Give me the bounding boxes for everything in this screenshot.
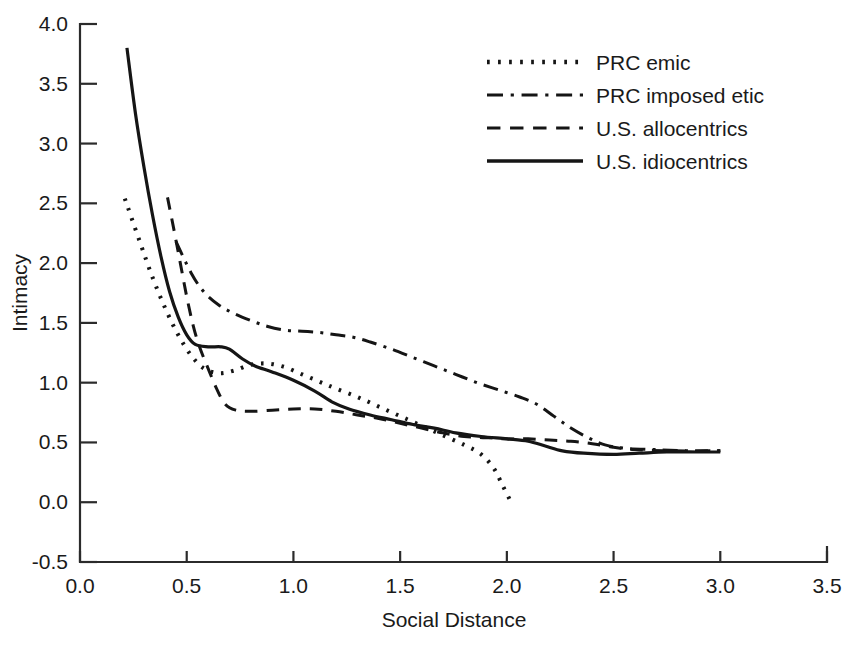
x-tick-label: 2.0 bbox=[492, 574, 521, 597]
x-tick-label: 0.0 bbox=[65, 574, 94, 597]
legend-label: PRC imposed etic bbox=[596, 84, 764, 107]
series-line-u-s-idiocentrics bbox=[127, 48, 720, 454]
y-tick-label: 3.0 bbox=[39, 132, 68, 155]
legend-label: PRC emic bbox=[596, 51, 691, 74]
y-axis-ticks bbox=[80, 24, 97, 562]
chart-legend: PRC emicPRC imposed eticU.S. allocentric… bbox=[487, 51, 764, 173]
x-axis-ticks bbox=[80, 551, 827, 562]
y-tick-label: 1.0 bbox=[39, 371, 68, 394]
x-tick-label: 1.5 bbox=[386, 574, 415, 597]
series-line-prc-imposed-etic bbox=[176, 242, 720, 451]
x-tick-label: 0.5 bbox=[172, 574, 201, 597]
y-tick-label: 0.0 bbox=[39, 490, 68, 513]
y-tick-label: 0.5 bbox=[39, 430, 68, 453]
chart-figure: 0.00.51.01.52.02.53.03.5 -0.50.00.51.01.… bbox=[0, 0, 847, 645]
line-chart-svg: 0.00.51.01.52.02.53.03.5 -0.50.00.51.01.… bbox=[0, 0, 847, 645]
x-axis-title: Social Distance bbox=[382, 608, 527, 631]
x-tick-label: 1.0 bbox=[279, 574, 308, 597]
y-axis-tick-labels: -0.50.00.51.01.52.02.53.03.54.0 bbox=[32, 12, 68, 573]
x-axis-tick-labels: 0.00.51.01.52.02.53.03.5 bbox=[65, 574, 841, 597]
series-line-u-s-allocentrics bbox=[168, 197, 721, 451]
y-tick-label: 4.0 bbox=[39, 12, 68, 35]
y-axis-title: Intimacy bbox=[8, 253, 31, 332]
series-line-prc-emic bbox=[125, 199, 511, 503]
legend-label: U.S. allocentrics bbox=[596, 117, 748, 140]
y-tick-label: 2.5 bbox=[39, 191, 68, 214]
x-tick-label: 2.5 bbox=[599, 574, 628, 597]
y-tick-label: 3.5 bbox=[39, 72, 68, 95]
y-tick-label: 1.5 bbox=[39, 311, 68, 334]
y-tick-label: 2.0 bbox=[39, 251, 68, 274]
x-tick-label: 3.0 bbox=[706, 574, 735, 597]
x-tick-label: 3.5 bbox=[812, 574, 841, 597]
y-tick-label: -0.5 bbox=[32, 550, 68, 573]
legend-label: U.S. idiocentrics bbox=[596, 150, 748, 173]
